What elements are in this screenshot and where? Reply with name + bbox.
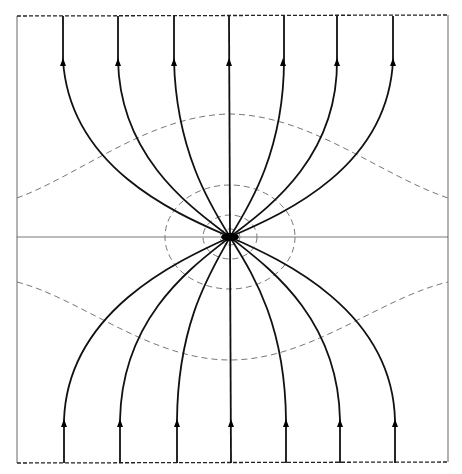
arrow-up-icon — [115, 58, 121, 66]
arrow-up-icon — [334, 58, 340, 66]
arrow-up-icon — [174, 419, 180, 427]
bottom-boundary-dashed — [17, 462, 448, 463]
arrow-up-icon — [280, 58, 286, 66]
upper-field-lines — [63, 16, 393, 237]
arrow-up-icon — [228, 419, 234, 427]
arrow-up-icon — [283, 419, 289, 427]
arrow-up-icon — [61, 419, 67, 427]
lower-field-lines — [64, 237, 395, 463]
arrow-up-icon — [337, 419, 343, 427]
point-charge — [221, 233, 239, 241]
field-diagram — [0, 0, 462, 474]
arrow-up-icon — [117, 419, 123, 427]
arrow-up-icon — [171, 58, 177, 66]
arrow-up-icon — [390, 58, 396, 66]
arrow-up-icon — [60, 58, 66, 66]
top-boundary-dashed — [17, 15, 448, 16]
arrow-up-icon — [392, 419, 398, 427]
arrow-up-icon — [226, 58, 232, 66]
